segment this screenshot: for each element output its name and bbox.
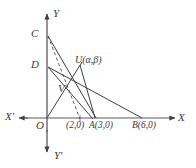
point-label-D: D (31, 59, 39, 70)
axis-label-y-negative: Y' (54, 150, 62, 161)
figure-canvas (0, 0, 196, 168)
point-label-A: A(3,0) (89, 121, 113, 131)
line-C-to-2-0-dashed (48, 36, 80, 119)
point-label-C: C (31, 28, 38, 39)
point-label-2-0: (2,0) (66, 121, 84, 131)
axis-label-y-positive: Y (53, 8, 59, 19)
origin-label: O (36, 120, 44, 131)
axis-label-x-negative: X' (5, 111, 14, 122)
point-label-V: V (58, 83, 65, 94)
geometry-figure: C D U(α,β) V O (2,0) A(3,0) B(6,0) X X' … (0, 0, 196, 168)
axis-label-x-positive: X (178, 112, 185, 123)
point-label-B: B(6,0) (132, 121, 156, 131)
point-label-U: U(α,β) (75, 55, 102, 65)
